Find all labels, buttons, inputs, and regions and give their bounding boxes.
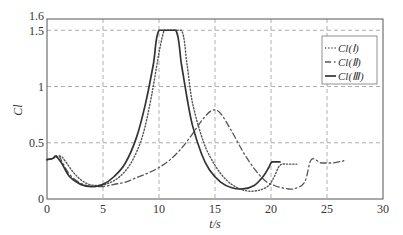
cl-time-chart: 051015202530 00.511.51.6 t/s Cl Cl(Ⅰ)Cl(… (0, 0, 403, 235)
y-tick-labels: 00.511.51.6 (29, 9, 44, 206)
x-tick-label: 5 (100, 202, 106, 216)
y-tick-label: 1 (38, 80, 44, 94)
series-lines (47, 30, 344, 191)
x-tick-label: 0 (44, 202, 50, 216)
y-tick-label: 0 (38, 192, 44, 206)
x-tick-label: 10 (153, 202, 165, 216)
x-tick-label: 30 (377, 202, 389, 216)
x-tick-label: 25 (321, 202, 333, 216)
y-tick-label: 1.6 (29, 9, 44, 23)
y-tick-label: 1.5 (29, 24, 44, 38)
x-axis-label: t/s (209, 217, 221, 231)
x-tick-labels: 051015202530 (44, 202, 389, 216)
x-tick-label: 20 (265, 202, 277, 216)
series-line-1 (47, 30, 297, 191)
y-axis-label: Cl (11, 104, 25, 116)
legend-label-1: Cl(Ⅰ) (338, 42, 359, 55)
legend-label-2: Cl(Ⅱ) (338, 56, 361, 69)
legend-label-3: Cl(Ⅲ) (338, 70, 364, 83)
series-line-2 (47, 110, 344, 189)
legend: Cl(Ⅰ)Cl(Ⅱ)Cl(Ⅲ) (322, 36, 377, 84)
y-tick-label: 0.5 (29, 136, 44, 150)
x-tick-label: 15 (209, 202, 221, 216)
